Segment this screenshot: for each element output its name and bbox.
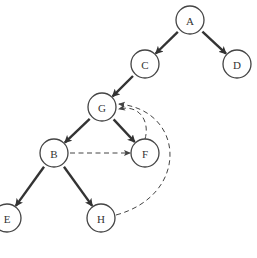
- node-label: F: [142, 148, 148, 160]
- node-label: E: [4, 213, 11, 225]
- node-label: H: [97, 213, 105, 225]
- node-label: A: [186, 15, 194, 27]
- tree-edges: [16, 32, 226, 206]
- dashed-edge-f-g: [119, 108, 146, 139]
- node-label: C: [141, 59, 148, 71]
- tree-edge-b-e: [16, 167, 44, 206]
- node-label: D: [233, 59, 241, 71]
- nodes: ACDGBFEH: [0, 6, 251, 232]
- node-label: G: [98, 102, 106, 114]
- node-e: E: [0, 204, 21, 232]
- tree-edge-c-g: [113, 76, 133, 96]
- tree-edge-g-b: [65, 119, 90, 143]
- node-label: B: [50, 148, 57, 160]
- node-h: H: [87, 204, 115, 232]
- node-d: D: [223, 50, 251, 78]
- tree-edge-g-f: [114, 119, 135, 142]
- tree-edge-a-c: [156, 32, 178, 54]
- node-f: F: [131, 139, 159, 167]
- graph-diagram: ACDGBFEH: [0, 0, 257, 258]
- tree-edge-a-d: [202, 32, 226, 54]
- node-b: B: [40, 139, 68, 167]
- node-g: G: [88, 93, 116, 121]
- node-a: A: [176, 6, 204, 34]
- node-c: C: [131, 50, 159, 78]
- tree-edge-b-h: [64, 167, 92, 206]
